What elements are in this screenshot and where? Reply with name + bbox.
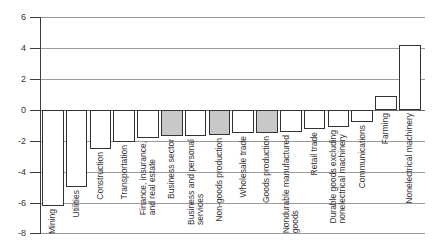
y-axis-tick [30, 110, 40, 111]
y-tick-label: -4 [0, 168, 26, 177]
y-axis-tick [30, 172, 40, 173]
bar-label: Goods production [262, 136, 271, 203]
bar-chart: 6420-2-4-6-8MiningUtilitiesConstructionT… [0, 0, 438, 248]
bar [137, 110, 159, 138]
y-axis-line [40, 17, 41, 234]
bar [375, 96, 397, 110]
gridline [40, 203, 425, 204]
bar-label: Mining [48, 209, 57, 234]
bar-label: Communications [358, 125, 367, 188]
y-tick-label: 0 [0, 106, 26, 115]
bar [232, 110, 254, 133]
bar-label: Utilities [72, 190, 81, 217]
bar-label: Nonelectrical machinery [405, 113, 414, 204]
y-axis-tick [30, 203, 40, 204]
y-tick-label: 6 [0, 13, 26, 22]
bar-label: Farming [381, 113, 390, 144]
bar [209, 110, 231, 135]
bar-label: Durable goods excluding nonelectrical ma… [329, 130, 347, 224]
gridline [40, 233, 425, 234]
bar [304, 110, 326, 129]
bar [42, 110, 64, 206]
bar-label: Finance, insurance, and real estate [139, 141, 157, 215]
bar [399, 45, 421, 110]
y-axis-tick [30, 233, 40, 234]
bar [185, 110, 207, 136]
bar [256, 110, 278, 133]
gridline [40, 48, 425, 49]
bar [113, 110, 135, 142]
bar [328, 110, 350, 127]
bar-label: Nondurable manufactured goods [282, 135, 300, 233]
bar [280, 110, 302, 132]
y-axis-tick [30, 141, 40, 142]
y-tick-label: -6 [0, 199, 26, 208]
bar-label: Non-goods production [215, 138, 224, 222]
y-tick-label: -8 [0, 229, 26, 238]
y-tick-label: -2 [0, 137, 26, 146]
bar-label: Business and personal services [187, 139, 205, 225]
y-axis-tick [30, 17, 40, 18]
y-tick-label: 2 [0, 75, 26, 84]
bar-label: Transportation [120, 145, 129, 200]
bar [161, 110, 183, 136]
bar-label: Construction [96, 152, 105, 200]
bar [351, 110, 373, 122]
gridline [40, 17, 425, 18]
bar-label: Wholesale trade [239, 136, 248, 197]
bar-label: Retail trade [310, 132, 319, 175]
bar-label: Business sector [167, 139, 176, 199]
bar [66, 110, 88, 187]
y-axis-tick [30, 48, 40, 49]
bar [90, 110, 112, 149]
gridline [40, 79, 425, 80]
y-axis-tick [30, 79, 40, 80]
y-tick-label: 4 [0, 44, 26, 53]
